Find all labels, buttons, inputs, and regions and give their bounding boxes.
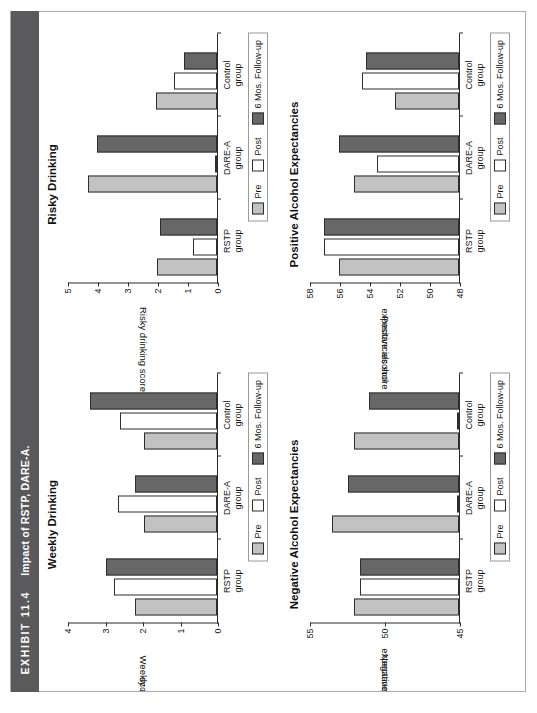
- x-tick-mark: [217, 115, 221, 116]
- legend-label-post: Post: [495, 477, 505, 495]
- x-group-label: Controlgroup: [222, 373, 243, 456]
- legend-swatch-post: [494, 499, 506, 511]
- x-tick-mark: [217, 538, 221, 539]
- legend-swatch-followup: [252, 112, 264, 124]
- bar-post: [120, 412, 218, 429]
- bar-post: [377, 155, 460, 172]
- bar-post: [118, 495, 217, 512]
- x-group-label: RSTPgroup: [464, 539, 485, 622]
- x-group-label: Controlgroup: [464, 373, 485, 456]
- bar-pre: [88, 175, 217, 192]
- bar-group: RSTPgroup: [68, 539, 217, 622]
- legend-label-pre: Pre: [253, 184, 263, 198]
- y-tick-label: 45: [455, 622, 465, 662]
- bar-pre: [395, 92, 460, 109]
- legend-label-pre: Pre: [495, 184, 505, 198]
- exhibit-caption: Impact of RSTP, DARE-A.: [19, 445, 31, 575]
- x-group-label-line2: group: [233, 63, 243, 86]
- x-group-label: DARE-Agroup: [222, 456, 243, 539]
- y-tick-label: 54: [365, 282, 375, 322]
- x-group-label-line2: group: [475, 63, 485, 86]
- y-tick-label: 4: [63, 622, 73, 662]
- plot-area: 455055RSTPgroupDARE-AgroupControlgroup: [310, 373, 460, 623]
- x-tick-mark: [459, 198, 463, 199]
- legend-swatch-pre: [494, 202, 506, 214]
- x-group-label: Controlgroup: [464, 33, 485, 116]
- x-group-label: DARE-Agroup: [464, 456, 485, 539]
- legend-label-followup: 6 Mos. Follow-up: [495, 379, 505, 448]
- legend-label-followup: 6 Mos. Follow-up: [495, 39, 505, 108]
- y-tick-label: 1: [176, 622, 186, 662]
- x-group-label: RSTPgroup: [222, 199, 243, 282]
- bar-pre: [339, 258, 459, 275]
- bar-group: DARE-Agroup: [68, 456, 217, 539]
- bar-post: [174, 72, 218, 89]
- y-tick-label: 3: [101, 622, 111, 662]
- bar-fu: [160, 218, 217, 235]
- plot-area: 012345RSTPgroupDARE-AgroupControlgroup: [68, 33, 218, 283]
- y-tick-label: 50: [380, 622, 390, 662]
- legend-positive-alcohol-expectancies: Pre Post 6 Mos. Follow-up: [490, 32, 510, 221]
- y-tick-label: 0: [213, 622, 223, 662]
- plot-area: 485052545658RSTPgroupDARE-AgroupControlg…: [310, 33, 460, 283]
- bar-pre: [157, 258, 217, 275]
- bar-group: DARE-Agroup: [310, 456, 459, 539]
- y-tick-label: 4: [93, 282, 103, 322]
- bar-fu: [348, 475, 459, 492]
- legend-swatch-pre: [494, 542, 506, 554]
- exhibit-title-bar: EXHIBIT 11.4 Impact of RSTP, DARE-A.: [11, 11, 39, 692]
- legend-label-pre: Pre: [495, 524, 505, 538]
- y-tick-label: 0: [213, 282, 223, 322]
- x-group-label-line2: group: [475, 403, 485, 426]
- bar-group: DARE-Agroup: [68, 116, 217, 199]
- x-tick-mark: [217, 455, 221, 456]
- bar-fu: [184, 52, 217, 69]
- y-tick-label: 52: [395, 282, 405, 322]
- bar-pre: [354, 175, 459, 192]
- bar-post: [360, 578, 459, 595]
- x-group-label-line2: group: [233, 569, 243, 592]
- bar-pre: [156, 92, 218, 109]
- y-tick-label: 2: [138, 622, 148, 662]
- legend-label-post: Post: [253, 137, 263, 155]
- bar-group: Controlgroup: [310, 33, 459, 116]
- y-tick-label: 56: [335, 282, 345, 322]
- panel-weekly-drinking: Weekly Drinking Weekly drinking score 01…: [46, 363, 280, 685]
- bar-post: [193, 238, 217, 255]
- x-group-label: DARE-Agroup: [464, 116, 485, 199]
- x-tick-mark: [459, 115, 463, 116]
- bar-fu: [324, 218, 459, 235]
- x-group-label-line2: group: [475, 486, 485, 509]
- x-group-label-line1: Control: [464, 60, 474, 89]
- bar-pre: [332, 515, 460, 532]
- x-group-label-line2: group: [233, 403, 243, 426]
- bar-fu: [135, 475, 218, 492]
- y-tick-label: 3: [123, 282, 133, 322]
- y-tick-label: 48: [455, 282, 465, 322]
- bar-group: RSTPgroup: [310, 539, 459, 622]
- panel-title: Positive Alcohol Expectancies: [288, 23, 300, 345]
- x-tick-mark: [217, 372, 221, 373]
- plot-area: 01234RSTPgroupDARE-AgroupControlgroup: [68, 373, 218, 623]
- x-group-label-line1: DARE-A: [464, 481, 474, 515]
- bar-post: [324, 238, 459, 255]
- panel-risky-drinking: Risky Drinking Risky drinking score 0123…: [46, 23, 280, 345]
- bar-group: RSTPgroup: [310, 199, 459, 282]
- x-group-label-line1: Control: [222, 60, 232, 89]
- panel-title: Weekly Drinking: [46, 363, 58, 685]
- x-tick-mark: [217, 198, 221, 199]
- bar-post: [215, 155, 217, 172]
- legend-swatch-post: [252, 499, 264, 511]
- legend-negative-alcohol-expectancies: Pre Post 6 Mos. Follow-up: [490, 372, 510, 561]
- x-group-label-line1: RSTP: [464, 229, 474, 253]
- bar-group: RSTPgroup: [68, 199, 217, 282]
- legend-weekly-drinking: Pre Post 6 Mos. Follow-up: [248, 372, 268, 561]
- x-tick-mark: [459, 455, 463, 456]
- bar-pre: [135, 598, 218, 615]
- bar-pre: [144, 515, 217, 532]
- y-tick-label: 55: [305, 622, 315, 662]
- bar-fu: [97, 135, 217, 152]
- x-group-label-line1: DARE-A: [222, 481, 232, 515]
- legend-swatch-post: [494, 159, 506, 171]
- x-tick-mark: [217, 32, 221, 33]
